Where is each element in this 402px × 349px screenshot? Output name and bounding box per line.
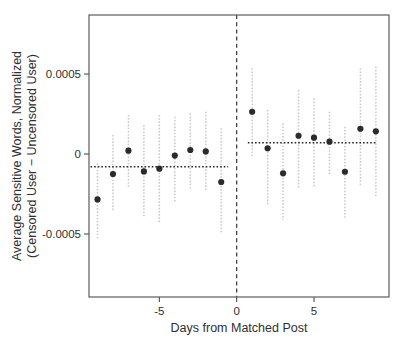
x-tick-label-5: 5 xyxy=(311,305,317,317)
data-point-day--4 xyxy=(172,153,178,159)
point-range-chart: -5050.00050-0.0005 Days from Matched Pos… xyxy=(0,0,402,349)
x-tick-label--5: -5 xyxy=(154,305,164,317)
y-axis-title-line2: (Censored User − Uncensored User) xyxy=(25,54,39,258)
data-point-day-4 xyxy=(295,133,301,139)
data-point-day--5 xyxy=(156,166,162,172)
data-point-day--2 xyxy=(203,148,209,154)
x-tick-label-0: 0 xyxy=(233,305,239,317)
data-point-day--8 xyxy=(110,171,116,177)
x-axis-title: Days from Matched Post xyxy=(171,321,308,335)
data-point-day-9 xyxy=(373,128,379,134)
data-point-day--1 xyxy=(218,179,224,185)
data-point-day-1 xyxy=(249,109,255,115)
data-point-day--3 xyxy=(187,147,193,153)
data-point-day-2 xyxy=(265,145,271,151)
data-point-day-3 xyxy=(280,170,286,176)
y-tick-label-0.0005: 0.0005 xyxy=(46,68,81,80)
chart-figure: -5050.00050-0.0005 Days from Matched Pos… xyxy=(0,0,402,349)
data-point-day-5 xyxy=(311,135,317,141)
y-axis-title-line1: Average Sensitive Words, Normalized xyxy=(10,51,24,261)
y-tick-label--0.0005: -0.0005 xyxy=(42,228,81,240)
data-point-day-6 xyxy=(326,139,332,145)
data-point-day-7 xyxy=(342,169,348,175)
axes-layer: -5050.00050-0.0005 xyxy=(42,68,317,317)
data-point-day--7 xyxy=(125,148,131,154)
mean-lines-layer xyxy=(91,143,376,167)
y-tick-label-0: 0 xyxy=(75,148,81,160)
plot-frame xyxy=(89,15,389,297)
data-point-day-8 xyxy=(357,126,363,132)
data-point-day--6 xyxy=(141,168,147,174)
data-point-day--9 xyxy=(94,196,100,202)
